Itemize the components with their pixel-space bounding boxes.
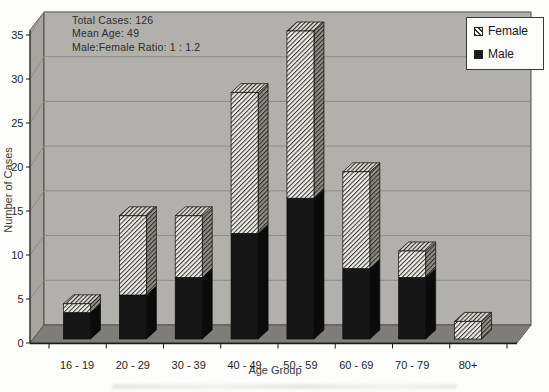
bar-1-female: [119, 216, 146, 295]
female-swatch-icon: [474, 27, 483, 36]
legend-label-female: Female: [488, 24, 528, 38]
legend-item-female: Female: [474, 24, 528, 38]
bar-3-female: [231, 93, 258, 234]
bar-7-female: [455, 321, 482, 339]
chart-figure: 0510152025303516 - 1920 - 2930 - 3940 - …: [0, 0, 549, 392]
bar-3-male: [231, 233, 258, 339]
bar-1-male: [119, 295, 146, 339]
x-tick-label-0: 16 - 19: [60, 359, 94, 371]
annotation-line-ratio: Male:Female Ratio: 1 : 1.2: [72, 41, 200, 54]
legend: Female Male: [466, 17, 544, 70]
bar-2-male: [175, 277, 202, 339]
bar-5-male: [343, 269, 370, 339]
x-tick-label-1: 20 - 29: [116, 359, 150, 371]
scan-artifact-caption: [112, 384, 457, 389]
left-wall: [30, 12, 44, 343]
x-tick-label-6: 70 - 79: [395, 359, 429, 371]
y-tick-label-35: 35: [11, 29, 23, 41]
y-axis-title: Number of Cases: [2, 120, 14, 260]
bar-0-female: [64, 304, 91, 313]
legend-label-male: Male: [488, 47, 514, 61]
bar-1-female-side: [146, 207, 156, 295]
y-tick-label-30: 30: [11, 73, 23, 85]
y-tick-label-0: 0: [17, 337, 23, 349]
plot-walls: [30, 12, 531, 343]
bar-2-female: [175, 216, 202, 278]
bar-4-male: [287, 198, 314, 339]
annotation-line-mean-age: Mean Age: 49: [72, 27, 200, 40]
bar-5-female-side: [370, 163, 380, 269]
bar-5-female: [343, 172, 370, 269]
bar-2-female-side: [202, 207, 212, 278]
bar-0-male: [64, 313, 91, 339]
bar-6-female: [399, 251, 426, 277]
legend-item-male: Male: [474, 47, 514, 61]
bar-4-female: [287, 31, 314, 198]
bar-3-male-side: [258, 224, 268, 339]
bar-3-female-side: [258, 84, 268, 234]
y-tick-label-5: 5: [17, 293, 23, 305]
x-axis-title: Age Group: [160, 364, 390, 376]
male-swatch-icon: [474, 50, 483, 59]
bar-2-male-side: [202, 268, 212, 339]
annotation-line-total: Total Cases: 126: [72, 14, 200, 27]
bar-6-male-side: [426, 268, 436, 339]
bar-5-male-side: [370, 260, 380, 339]
bar-4-female-side: [314, 22, 324, 198]
x-tick-label-7: 80+: [459, 359, 478, 371]
bar-6-male: [399, 277, 426, 339]
bar-4-male-side: [314, 189, 324, 339]
annotation-box: Total Cases: 126 Mean Age: 49 Male:Femal…: [72, 14, 200, 54]
